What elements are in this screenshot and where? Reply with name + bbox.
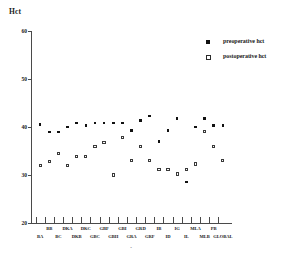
- x-tick-mark: [109, 217, 110, 223]
- preoperative-point: [148, 114, 151, 117]
- x-tick-mark: [173, 217, 174, 223]
- x-tick-mark: [163, 217, 164, 223]
- open-square-marker-icon: [205, 54, 211, 60]
- x-tick-label: MLA: [190, 226, 201, 232]
- postoperative-point: [176, 173, 179, 176]
- y-axis-title: Hct: [9, 7, 21, 16]
- preoperative-point: [57, 130, 60, 133]
- x-tick-label: IL: [184, 234, 189, 240]
- legend-item-preoperative: preoperative hct: [205, 36, 291, 51]
- x-tick-mark: [209, 217, 210, 223]
- x-tick-mark: [118, 217, 119, 223]
- preoperative-point: [130, 129, 133, 132]
- y-tick-label: 20: [21, 219, 27, 227]
- y-tick-label: 50: [21, 75, 27, 83]
- x-tick-label: DKC: [81, 226, 91, 232]
- preoperative-point: [212, 124, 215, 127]
- postoperative-point: [185, 168, 188, 171]
- postoperative-point: [167, 168, 170, 171]
- preoperative-point: [103, 122, 106, 125]
- postoperative-point: [66, 164, 69, 167]
- x-tick-mark: [127, 217, 128, 223]
- preoperative-point: [185, 181, 188, 184]
- x-tick-mark: [145, 217, 146, 223]
- x-axis-caption: -: [130, 244, 132, 249]
- x-tick-label: DKB: [72, 234, 82, 240]
- x-tick-label: IG: [175, 226, 180, 232]
- x-tick-label: GRA: [126, 234, 136, 240]
- postoperative-point: [203, 130, 206, 133]
- x-tick-mark: [182, 217, 183, 223]
- postoperative-point: [130, 159, 133, 162]
- preoperative-point: [112, 122, 115, 125]
- preoperative-point: [75, 122, 78, 125]
- postoperative-point: [121, 136, 124, 139]
- postoperative-point: [103, 141, 106, 144]
- preoperative-point: [176, 117, 179, 120]
- x-tick-mark: [218, 217, 219, 223]
- x-tick-label: GBF: [99, 226, 108, 232]
- y-tick-label: 40: [21, 123, 27, 131]
- x-tick-mark: [36, 217, 37, 223]
- x-tick-mark: [45, 217, 46, 223]
- plot-area: [31, 31, 232, 223]
- x-tick-label: GBC: [90, 234, 100, 240]
- x-tick-label: PB: [211, 226, 217, 232]
- postoperative-point: [221, 159, 224, 162]
- preoperative-point: [194, 126, 197, 129]
- x-tick-mark: [90, 217, 91, 223]
- preoperative-point: [157, 140, 160, 143]
- postoperative-point: [75, 155, 78, 158]
- x-tick-label: GBI: [118, 226, 126, 232]
- preoperative-point: [39, 123, 42, 126]
- x-axis-line: [31, 223, 232, 224]
- preoperative-point: [221, 124, 224, 127]
- x-tick-label: GLOBAL: [213, 234, 232, 240]
- x-tick-mark: [200, 217, 201, 223]
- x-tick-mark: [63, 217, 64, 223]
- x-tick-label: MLB: [199, 234, 209, 240]
- postoperative-point: [84, 155, 87, 158]
- preoperative-point: [203, 117, 206, 120]
- y-tick-label: 30: [21, 171, 27, 179]
- x-tick-mark: [136, 217, 137, 223]
- preoperative-point: [66, 126, 69, 129]
- x-tick-label: GBH: [108, 234, 118, 240]
- preoperative-point: [121, 122, 124, 125]
- postoperative-point: [39, 164, 42, 167]
- filled-square-marker-icon: [205, 39, 211, 45]
- x-tick-label: BB: [46, 226, 52, 232]
- postoperative-point: [212, 145, 215, 148]
- preoperative-point: [93, 122, 96, 125]
- x-tick-mark: [154, 217, 155, 223]
- x-tick-mark: [81, 217, 82, 223]
- postoperative-point: [157, 168, 160, 171]
- x-tick-mark: [54, 217, 55, 223]
- preoperative-point: [84, 124, 87, 127]
- preoperative-point: [48, 130, 51, 133]
- x-tick-label: DKA: [63, 226, 73, 232]
- x-tick-label: ID: [166, 234, 171, 240]
- legend-item-label: preoperative hct: [223, 38, 264, 44]
- postoperative-point: [93, 145, 96, 148]
- hct-scatter-chart: Hct 6050403020 BABBBCDKADKBDKCGBCGBFGBHG…: [0, 0, 293, 264]
- chart-legend: preoperative hct postoperative hct: [205, 36, 291, 66]
- legend-item-postoperative: postoperative hct: [205, 51, 291, 66]
- postoperative-point: [148, 159, 151, 162]
- x-tick-mark: [191, 217, 192, 223]
- x-tick-label: GRD: [136, 226, 146, 232]
- postoperative-point: [194, 162, 197, 165]
- postoperative-point: [112, 174, 115, 177]
- y-tick-label: 60: [21, 27, 27, 35]
- preoperative-point: [139, 119, 142, 122]
- postoperative-point: [139, 145, 142, 148]
- x-tick-label: BA: [37, 234, 43, 240]
- x-tick-label: BC: [55, 234, 61, 240]
- x-tick-mark: [72, 217, 73, 223]
- legend-item-label: postoperative hct: [223, 53, 266, 59]
- x-tick-label: IB: [157, 226, 162, 232]
- x-tick-mark: [100, 217, 101, 223]
- preoperative-point: [167, 129, 170, 132]
- postoperative-point: [48, 160, 51, 163]
- x-tick-label: GRF: [145, 234, 155, 240]
